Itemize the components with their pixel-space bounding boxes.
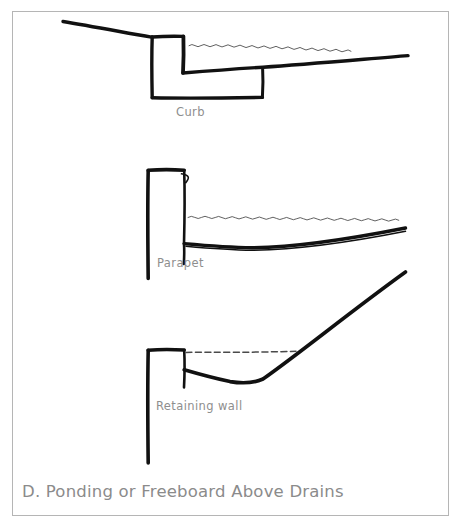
retaining-roof-deck — [184, 272, 405, 383]
curb-right-wall — [183, 36, 184, 72]
parapet-water-line — [188, 216, 399, 221]
figure-page: Curb Parapet Retaining wall D. Ponding o… — [0, 0, 466, 531]
figure-caption: D. Ponding or Freeboard Above Drains — [22, 482, 344, 501]
panel-label-retaining-wall: Retaining wall — [156, 399, 242, 413]
retaining-freeboard-dashed-line — [186, 351, 296, 352]
curb-roof-slope — [63, 22, 152, 38]
panel-label-curb: Curb — [176, 105, 205, 119]
curb-roof-deck — [183, 56, 408, 73]
parapet-top — [148, 170, 184, 171]
panel-label-parapet: Parapet — [157, 256, 204, 270]
curb-inner-wall — [262, 67, 263, 97]
curb-water-line — [189, 45, 351, 52]
curb-base-slab — [152, 97, 262, 98]
retaining-wall-top — [148, 350, 184, 351]
panel-curb-drawing — [63, 22, 408, 99]
parapet-inner-wall — [184, 170, 185, 243]
panel-retaining-wall-drawing — [148, 272, 406, 463]
curb-top — [152, 36, 183, 37]
sketch-drawing — [0, 0, 466, 531]
